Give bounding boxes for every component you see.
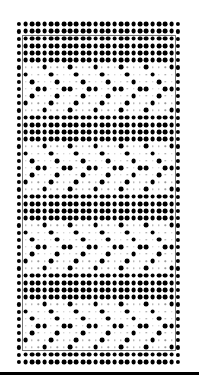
filled-dot [55, 288, 60, 293]
filled-dot [74, 194, 79, 199]
filled-dot [176, 22, 180, 26]
filled-dot [17, 116, 21, 120]
filled-dot [118, 165, 123, 170]
filled-dot [61, 130, 66, 135]
filled-dot [68, 288, 73, 293]
filled-dot [112, 209, 117, 214]
filled-dot [61, 295, 66, 300]
filled-dot [131, 295, 136, 300]
filled-dot [112, 359, 117, 364]
filled-dot [131, 79, 136, 84]
filled-dot [106, 137, 111, 142]
filled-dot [42, 51, 47, 56]
filled-dot [30, 22, 35, 27]
filled-dot [176, 116, 180, 120]
filled-dot [112, 137, 117, 142]
filled-dot [61, 244, 66, 249]
filled-dot [157, 288, 162, 293]
filled-dot [55, 352, 60, 357]
filled-dot [61, 273, 66, 278]
filled-dot [17, 123, 21, 127]
filled-dot [131, 58, 136, 63]
filled-dot [36, 137, 41, 142]
filled-dot [23, 36, 28, 41]
filled-dot [17, 216, 21, 220]
filled-dot [93, 359, 98, 364]
filled-dot [118, 58, 123, 63]
filled-dot [23, 194, 28, 199]
filled-dot [93, 130, 98, 135]
filled-dot [93, 144, 98, 149]
filled-dot [131, 43, 136, 48]
filled-dot [176, 216, 180, 220]
filled-dot [157, 122, 162, 127]
filled-dot [17, 72, 21, 76]
filled-dot [157, 280, 162, 285]
filled-dot [176, 281, 180, 285]
filled-dot [112, 295, 117, 300]
filled-dot [176, 309, 180, 313]
filled-dot [106, 316, 111, 321]
filled-dot [169, 323, 174, 328]
filled-dot [112, 273, 117, 278]
filled-dot [106, 273, 111, 278]
filled-dot [61, 43, 66, 48]
filled-dot [138, 122, 143, 127]
filled-dot [17, 144, 21, 148]
filled-dot [30, 295, 35, 300]
dot-pattern-chart [0, 0, 199, 382]
filled-dot [106, 22, 111, 27]
filled-dot [118, 137, 123, 142]
filled-dot [106, 43, 111, 48]
filled-dot [169, 216, 174, 221]
filled-dot [42, 201, 47, 206]
filled-dot [17, 331, 21, 335]
filled-dot [131, 280, 136, 285]
filled-dot [80, 58, 85, 63]
filled-dot [42, 187, 47, 192]
filled-dot [131, 331, 136, 336]
filled-dot [17, 130, 21, 134]
filled-dot [99, 230, 104, 235]
filled-dot [150, 43, 155, 48]
filled-dot [169, 201, 174, 206]
filled-dot [55, 316, 60, 321]
filled-dot [30, 94, 35, 99]
filled-dot [80, 29, 85, 34]
filled-dot [112, 87, 117, 92]
filled-dot [55, 115, 60, 120]
filled-dot [49, 101, 54, 106]
filled-dot [112, 194, 117, 199]
filled-dot [68, 165, 73, 170]
filled-dot [30, 43, 35, 48]
filled-dot [131, 94, 136, 99]
filled-dot [80, 288, 85, 293]
filled-dot [30, 58, 35, 63]
filled-dot [99, 101, 104, 106]
filled-dot [138, 51, 143, 56]
filled-dot [125, 130, 130, 135]
filled-dot [23, 101, 28, 106]
filled-dot [17, 108, 21, 112]
filled-dot [23, 43, 28, 48]
filled-dot [17, 80, 21, 84]
filled-dot [112, 29, 117, 34]
filled-dot [93, 302, 98, 307]
filled-dot [144, 201, 149, 206]
filled-dot [23, 29, 28, 34]
filled-dot [36, 352, 41, 357]
filled-dot [150, 216, 155, 221]
filled-dot [169, 345, 174, 350]
filled-dot [176, 295, 180, 299]
filled-dot [74, 51, 79, 56]
filled-dot [150, 137, 155, 142]
filled-dot [80, 280, 85, 285]
filled-dot [55, 173, 60, 178]
filled-dot [36, 43, 41, 48]
filled-dot [131, 115, 136, 120]
filled-dot [55, 130, 60, 135]
filled-dot [30, 51, 35, 56]
filled-dot [169, 137, 174, 142]
filled-dot [61, 201, 66, 206]
filled-dot [42, 244, 47, 249]
